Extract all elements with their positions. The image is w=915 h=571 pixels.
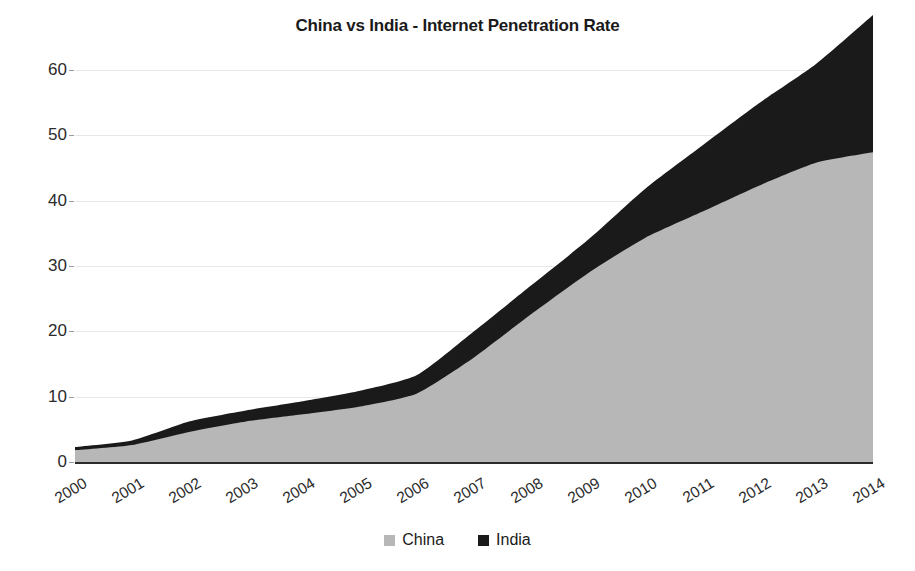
y-axis-tick-mark <box>69 331 74 332</box>
y-axis-tick-label: 20 <box>9 321 67 341</box>
legend-swatch-icon <box>478 535 489 546</box>
y-axis-tick-mark <box>69 266 74 267</box>
x-axis-tick-label: 2005 <box>327 474 376 513</box>
y-axis-tick-mark <box>69 135 74 136</box>
legend-item-india[interactable]: India <box>478 531 531 549</box>
x-axis-tick-label: 2009 <box>555 474 604 513</box>
x-axis-tick-label: 2004 <box>270 474 319 513</box>
x-axis-tick-label: 2010 <box>612 474 661 513</box>
x-axis-tick-label: 2008 <box>498 474 547 513</box>
y-axis-tick-mark <box>69 201 74 202</box>
y-axis-tick-label: 30 <box>9 256 67 276</box>
stacked-area-series <box>75 70 873 462</box>
area-series-china <box>75 152 873 462</box>
x-axis-tick-label: 2011 <box>669 474 718 513</box>
x-axis-tick-label: 2012 <box>726 474 775 513</box>
y-axis-tick-label: 50 <box>9 125 67 145</box>
y-axis-tick-mark <box>69 397 74 398</box>
chart-title: China vs India - Internet Penetration Ra… <box>0 16 915 36</box>
x-axis-tick-label: 2003 <box>213 474 262 513</box>
chart-container: China vs India - Internet Penetration Ra… <box>0 0 915 571</box>
x-axis: 2000200120022003200420052006200720082009… <box>0 462 915 542</box>
x-axis-tick-label: 2007 <box>441 474 490 513</box>
chart-legend: ChinaIndia <box>0 531 915 549</box>
x-axis-tick-label: 2013 <box>783 474 832 513</box>
x-axis-tick-label: 2006 <box>384 474 433 513</box>
x-axis-tick-label: 2001 <box>99 474 148 513</box>
legend-swatch-icon <box>384 535 395 546</box>
x-axis-tick-label: 2000 <box>42 474 91 513</box>
x-axis-tick-label: 2014 <box>840 474 889 513</box>
plot-area <box>75 70 873 462</box>
legend-label: China <box>402 531 444 549</box>
legend-item-china[interactable]: China <box>384 531 444 549</box>
y-axis-tick-label: 40 <box>9 191 67 211</box>
y-axis-tick-mark <box>69 70 74 71</box>
x-axis-tick-label: 2002 <box>156 474 205 513</box>
y-axis-tick-label: 10 <box>9 387 67 407</box>
legend-label: India <box>496 531 531 549</box>
y-axis-tick-label: 60 <box>9 60 67 80</box>
